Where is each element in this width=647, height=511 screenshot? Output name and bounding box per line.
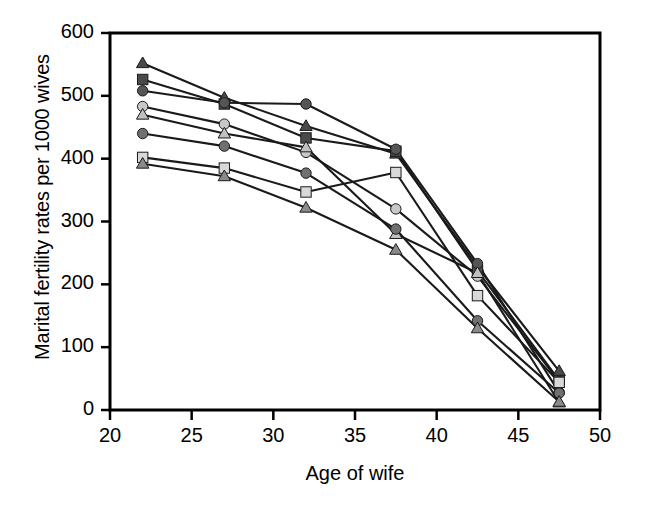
data-point-circle-marker	[219, 98, 229, 108]
y-tick-label: 100	[24, 334, 94, 357]
x-tick-label: 40	[407, 424, 467, 447]
series-5-line	[143, 115, 560, 403]
x-tick-label: 50	[570, 424, 630, 447]
series-8-line	[143, 164, 560, 402]
x-tick-label: 25	[162, 424, 222, 447]
series-1-group	[143, 63, 560, 371]
y-tick-label: 400	[24, 146, 94, 169]
series-3-markers	[137, 86, 564, 398]
x-tick-label: 45	[488, 424, 548, 447]
series-3-group	[143, 91, 560, 393]
data-point-circle-marker	[219, 141, 229, 151]
series-8-markers	[136, 157, 565, 406]
series-4-line	[143, 107, 560, 382]
line-chart-svg	[110, 33, 600, 410]
data-point-circle-marker	[391, 204, 401, 214]
data-point-square-marker	[391, 167, 401, 177]
series-5-markers	[136, 108, 565, 406]
y-tick-label: 500	[24, 83, 94, 106]
series-8-group	[143, 164, 560, 402]
data-point-square-marker	[137, 74, 147, 84]
data-point-square-marker	[472, 290, 482, 300]
series-6-markers	[137, 128, 564, 398]
y-tick-label: 0	[24, 397, 94, 420]
series-1-markers	[136, 57, 565, 376]
data-point-square-marker	[554, 377, 564, 387]
y-tick-label: 300	[24, 209, 94, 232]
series-2-group	[143, 80, 560, 381]
series-2-line	[143, 80, 560, 381]
data-point-circle-marker	[391, 224, 401, 234]
x-axis-label: Age of wife	[110, 462, 600, 485]
data-point-circle-marker	[301, 168, 311, 178]
y-tick-label: 600	[24, 20, 94, 43]
series-5-group	[143, 115, 560, 403]
series-4-group	[143, 107, 560, 382]
y-tick-label: 200	[24, 271, 94, 294]
data-point-square-marker	[301, 187, 311, 197]
data-point-circle-marker	[391, 144, 401, 154]
x-tick-label: 30	[243, 424, 303, 447]
data-point-circle-marker	[137, 128, 147, 138]
data-point-circle-marker	[137, 86, 147, 96]
series-1-line	[143, 63, 560, 371]
series-7-markers	[137, 152, 564, 387]
x-tick-label: 35	[325, 424, 385, 447]
x-tick-label: 20	[80, 424, 140, 447]
data-point-circle-marker	[301, 99, 311, 109]
series-2-markers	[137, 74, 564, 385]
series-3-line	[143, 91, 560, 393]
figure-container: Marital fertility rates per 1000 wives A…	[0, 0, 647, 511]
plot-area	[110, 33, 600, 410]
data-point-triangle-marker	[136, 57, 148, 68]
